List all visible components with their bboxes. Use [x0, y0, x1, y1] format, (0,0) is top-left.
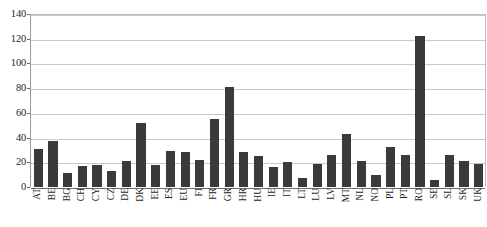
- bar: [298, 178, 307, 187]
- bar: [371, 175, 380, 187]
- y-axis-label: 140: [11, 9, 26, 20]
- bar: [386, 147, 395, 187]
- x-axis-label: ES: [165, 188, 175, 199]
- x-axis-label: NL: [356, 188, 366, 201]
- bar: [313, 164, 322, 187]
- bar: [210, 119, 219, 187]
- x-axis-label: IT: [283, 188, 293, 197]
- x-axis-label: PT: [400, 188, 410, 199]
- bar: [92, 165, 101, 187]
- bar: [181, 152, 190, 187]
- y-axis-label: 120: [11, 33, 26, 44]
- bar: [459, 161, 468, 187]
- bar: [474, 164, 483, 187]
- bar: [151, 165, 160, 187]
- bar: [34, 149, 43, 187]
- y-axis-label: 80: [16, 83, 26, 94]
- x-axis-label: HU: [254, 188, 264, 202]
- bar: [254, 156, 263, 187]
- bar: [445, 155, 454, 187]
- x-axis-label: LV: [327, 188, 337, 200]
- bar: [225, 87, 234, 187]
- x-axis-label: CH: [77, 188, 87, 201]
- y-axis-tick: [27, 187, 30, 188]
- bar: [327, 155, 336, 187]
- bar: [48, 141, 57, 187]
- bar: [283, 162, 292, 187]
- bar: [63, 173, 72, 187]
- y-axis: 020406080100120140: [0, 0, 30, 227]
- x-axis-label: CY: [92, 188, 102, 201]
- y-axis-label: 20: [16, 157, 26, 168]
- y-axis-label: 60: [16, 108, 26, 119]
- x-axis-label: SE: [430, 188, 440, 199]
- bar: [122, 161, 131, 187]
- x-axis-label: DE: [121, 188, 131, 201]
- x-axis-label: EE: [151, 188, 161, 200]
- bar: [166, 151, 175, 187]
- x-axis-label: BE: [48, 188, 58, 200]
- x-axis-label: IE: [268, 188, 278, 197]
- bar-series: [31, 0, 486, 187]
- bar: [136, 123, 145, 187]
- x-axis-label: SK: [459, 188, 469, 200]
- x-axis-label: GR: [224, 188, 234, 201]
- x-axis-label: UK: [474, 188, 484, 202]
- x-axis-label: LU: [312, 188, 322, 201]
- bar: [357, 161, 366, 187]
- bar: [78, 166, 87, 187]
- bar: [107, 171, 116, 187]
- x-axis-label: FR: [209, 188, 219, 200]
- y-axis-label: 0: [21, 182, 26, 193]
- bar: [342, 134, 351, 187]
- bar-chart: 020406080100120140 ATBEBGCHCYCZDEDKEEESE…: [0, 0, 487, 227]
- x-axis-label: LT: [298, 188, 308, 199]
- x-axis-label: BG: [63, 188, 73, 201]
- y-axis-label: 100: [11, 58, 26, 69]
- bar: [430, 180, 439, 187]
- x-axis-label: AT: [33, 188, 43, 200]
- y-axis-label: 40: [16, 132, 26, 143]
- x-axis-label: CZ: [107, 188, 117, 200]
- x-axis-label: PL: [386, 188, 396, 199]
- x-axis-label: EU: [180, 188, 190, 201]
- x-axis-label: FI: [195, 188, 205, 196]
- x-axis-label: DK: [136, 188, 146, 202]
- x-axis-label: RO: [415, 188, 425, 201]
- x-axis-label: HR: [239, 188, 249, 201]
- bar: [195, 160, 204, 187]
- x-axis-label: MT: [342, 188, 352, 202]
- x-axis-label: NO: [371, 188, 381, 202]
- bar: [239, 152, 248, 187]
- bar: [269, 167, 278, 187]
- bar: [415, 36, 424, 187]
- bar: [401, 155, 410, 187]
- x-axis-label: SL: [444, 188, 454, 199]
- x-axis: ATBEBGCHCYCZDEDKEEESEUFIFRGRHRHUIEITLTLU…: [31, 188, 486, 227]
